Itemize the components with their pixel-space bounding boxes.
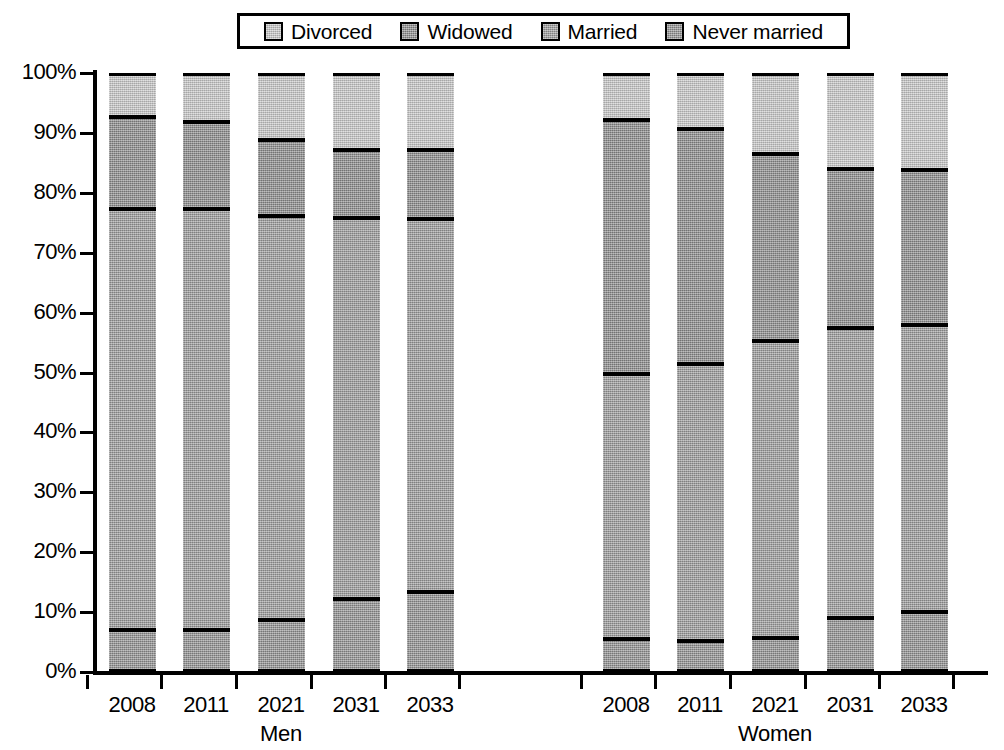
bar-segment-never-married[interactable] bbox=[258, 620, 305, 672]
x-axis-tick bbox=[86, 675, 89, 689]
y-axis-tick bbox=[80, 72, 94, 75]
bar-segment-widowed[interactable] bbox=[901, 170, 948, 325]
group-label-men: Men bbox=[260, 722, 302, 746]
bar-segment-divorced[interactable] bbox=[407, 73, 454, 150]
y-axis-label: 100% bbox=[14, 61, 76, 83]
bar-men-2031[interactable] bbox=[333, 73, 380, 672]
y-axis-label: 30% bbox=[14, 480, 76, 502]
x-axis-tick bbox=[804, 675, 807, 689]
x-axis-tick bbox=[580, 675, 583, 689]
bar-segment-divorced[interactable] bbox=[109, 73, 156, 117]
bar-segment-divorced[interactable] bbox=[677, 73, 724, 129]
bar-segment-widowed[interactable] bbox=[109, 117, 156, 209]
x-axis-tick bbox=[878, 675, 881, 689]
bar-women-2033[interactable] bbox=[901, 73, 948, 672]
bar-segment-married[interactable] bbox=[109, 209, 156, 630]
y-axis-tick bbox=[80, 192, 94, 195]
x-axis-tick bbox=[310, 675, 313, 689]
bar-segment-widowed[interactable] bbox=[752, 154, 799, 341]
y-axis-tick bbox=[80, 611, 94, 614]
y-axis-tick bbox=[80, 312, 94, 315]
x-axis-label-women-2033: 2033 bbox=[901, 693, 948, 717]
y-axis-label: 80% bbox=[14, 181, 76, 203]
bar-segment-married[interactable] bbox=[827, 328, 874, 618]
bar-segment-never-married[interactable] bbox=[407, 592, 454, 672]
bar-segment-widowed[interactable] bbox=[183, 122, 230, 209]
group-label-women: Women bbox=[738, 722, 812, 746]
y-axis-label: 90% bbox=[14, 121, 76, 143]
bar-men-2021[interactable] bbox=[258, 73, 305, 672]
bar-women-2008[interactable] bbox=[603, 73, 650, 672]
y-axis-label: 0% bbox=[14, 660, 76, 682]
bar-segment-divorced[interactable] bbox=[258, 73, 305, 140]
x-axis-label-women-2008: 2008 bbox=[603, 693, 650, 717]
x-axis-tick bbox=[458, 675, 461, 689]
y-axis-label: 60% bbox=[14, 301, 76, 323]
x-axis-label-men-2021: 2021 bbox=[258, 693, 305, 717]
x-axis-label-men-2011: 2011 bbox=[183, 693, 228, 717]
y-axis-tick bbox=[80, 671, 94, 674]
x-axis-label-men-2033: 2033 bbox=[407, 693, 454, 717]
bar-segment-divorced[interactable] bbox=[603, 73, 650, 120]
x-axis-tick bbox=[384, 675, 387, 689]
y-axis-tick bbox=[80, 431, 94, 434]
x-axis-tick bbox=[654, 675, 657, 689]
bar-segment-married[interactable] bbox=[603, 374, 650, 639]
x-axis-label-men-2008: 2008 bbox=[109, 693, 156, 717]
y-axis-tick bbox=[80, 491, 94, 494]
bar-segment-divorced[interactable] bbox=[183, 73, 230, 122]
x-axis-tick bbox=[729, 675, 732, 689]
y-axis-label: 20% bbox=[14, 540, 76, 562]
bar-segment-never-married[interactable] bbox=[183, 630, 230, 672]
bar-segment-never-married[interactable] bbox=[677, 641, 724, 672]
x-axis-tick bbox=[235, 675, 238, 689]
bar-men-2011[interactable] bbox=[183, 73, 230, 672]
bar-segment-married[interactable] bbox=[407, 219, 454, 593]
y-axis-label: 50% bbox=[14, 361, 76, 383]
bar-segment-married[interactable] bbox=[901, 325, 948, 613]
bar-segment-widowed[interactable] bbox=[827, 169, 874, 328]
bar-women-2011[interactable] bbox=[677, 73, 724, 672]
bar-segment-widowed[interactable] bbox=[333, 150, 380, 218]
bar-segment-widowed[interactable] bbox=[603, 120, 650, 373]
x-axis-label-women-2011: 2011 bbox=[677, 693, 722, 717]
bar-segment-never-married[interactable] bbox=[109, 630, 156, 672]
y-axis-tick bbox=[80, 252, 94, 255]
bar-segment-divorced[interactable] bbox=[901, 73, 948, 170]
bar-women-2031[interactable] bbox=[827, 73, 874, 672]
bar-segment-never-married[interactable] bbox=[333, 599, 380, 672]
y-axis-label: 40% bbox=[14, 420, 76, 442]
y-axis-label: 10% bbox=[14, 600, 76, 622]
bar-segment-divorced[interactable] bbox=[752, 73, 799, 154]
bar-segment-married[interactable] bbox=[258, 216, 305, 620]
x-axis-label-women-2031: 2031 bbox=[827, 693, 874, 717]
bar-segment-widowed[interactable] bbox=[258, 140, 305, 215]
bar-segment-married[interactable] bbox=[677, 364, 724, 641]
x-axis-label-women-2021: 2021 bbox=[752, 693, 799, 717]
y-axis-tick bbox=[80, 551, 94, 554]
y-axis-label: 70% bbox=[14, 241, 76, 263]
chart-plot-area: 100%90%80%70%60%50%40%30%20%10%0% 200820… bbox=[0, 0, 1004, 750]
bar-men-2033[interactable] bbox=[407, 73, 454, 672]
bar-segment-never-married[interactable] bbox=[752, 638, 799, 672]
bar-segment-divorced[interactable] bbox=[827, 73, 874, 169]
bar-segment-never-married[interactable] bbox=[603, 639, 650, 672]
bar-segment-widowed[interactable] bbox=[677, 129, 724, 364]
x-axis-tick bbox=[952, 675, 955, 689]
bar-men-2008[interactable] bbox=[109, 73, 156, 672]
bar-segment-married[interactable] bbox=[752, 341, 799, 639]
x-axis-tick bbox=[160, 675, 163, 689]
bar-segment-divorced[interactable] bbox=[333, 73, 380, 150]
bar-segment-married[interactable] bbox=[333, 218, 380, 599]
bar-women-2021[interactable] bbox=[752, 73, 799, 672]
y-axis-tick bbox=[80, 372, 94, 375]
bar-segment-never-married[interactable] bbox=[827, 618, 874, 672]
bar-segment-married[interactable] bbox=[183, 209, 230, 630]
x-axis-label-men-2031: 2031 bbox=[333, 693, 380, 717]
y-axis-tick bbox=[80, 132, 94, 135]
bar-segment-never-married[interactable] bbox=[901, 612, 948, 672]
bar-segment-widowed[interactable] bbox=[407, 150, 454, 218]
